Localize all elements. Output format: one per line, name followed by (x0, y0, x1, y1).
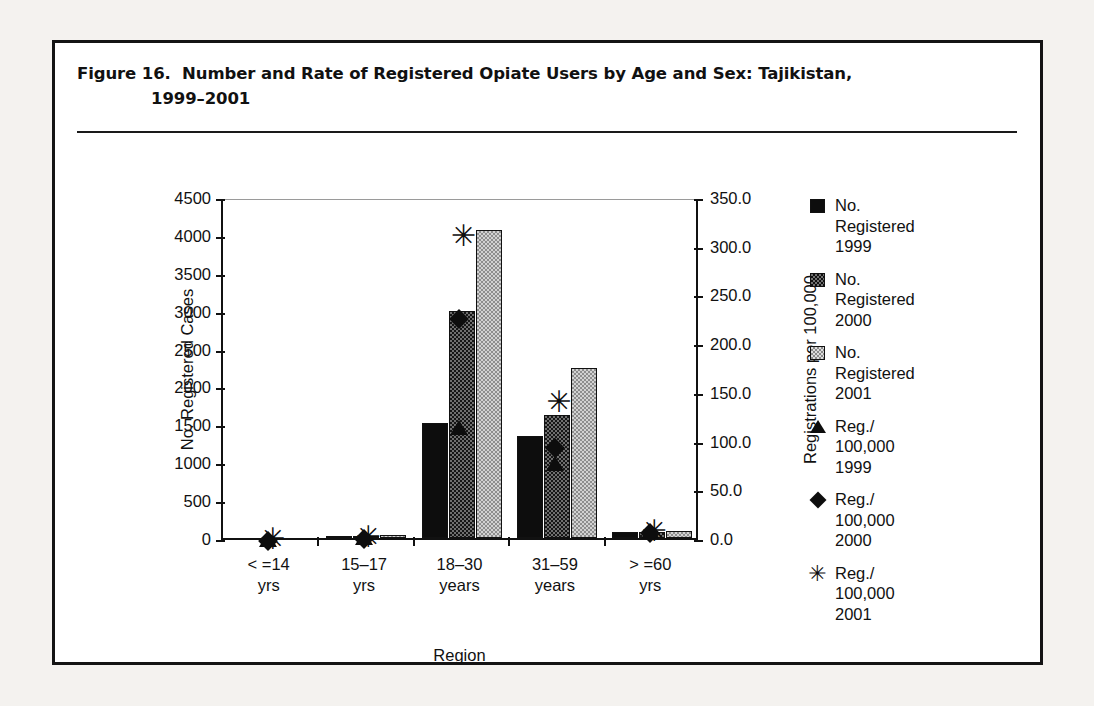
legend-item-0[interactable]: No. Registered 1999 (810, 195, 1035, 257)
x-axis-category-label: 15–17 yrs (316, 554, 411, 596)
legend-swatch-icon (810, 346, 825, 360)
y-axis-left-tick (216, 540, 225, 542)
legend-marker-icon (810, 420, 825, 436)
x-axis-category-label: > =60 yrs (603, 554, 698, 596)
y-axis-left-tick (216, 464, 225, 466)
y-axis-left-tick (216, 426, 225, 428)
y-axis-right-tick (694, 540, 703, 542)
y-axis-right-tick-label: 0.0 (710, 530, 790, 549)
y-axis-right-tick (694, 443, 703, 445)
legend-label: No. Registered 2000 (835, 269, 915, 331)
legend-label: Reg./ 100,000 2001 (835, 563, 895, 625)
legend-item-4[interactable]: Reg./ 100,000 2000 (810, 489, 1035, 551)
bar-1999-3 (517, 436, 543, 538)
bar-1999-4 (612, 532, 638, 538)
y-axis-left-tick-label: 4500 (135, 189, 211, 208)
y-axis-right-tick-label: 300.0 (710, 238, 790, 257)
legend-triangle-icon (810, 420, 826, 433)
y-axis-left-tick-label: 2000 (135, 378, 211, 397)
y-axis-right-tick-label: 100.0 (710, 433, 790, 452)
bar-2000-3 (544, 415, 570, 538)
legend-swatch-icon (810, 199, 825, 213)
legend-marker-icon (810, 493, 825, 509)
chart-canvas: No. Registered Cases Registrations per 1… (55, 43, 1046, 668)
bar-2001-4 (666, 531, 692, 538)
legend-asterisk-icon: ✳ (808, 567, 826, 581)
y-axis-right-tick (694, 345, 703, 347)
figure-card: Figure 16. Number and Rate of Registered… (52, 40, 1043, 665)
legend-label: No. Registered 2001 (835, 342, 915, 404)
y-axis-left-tick (216, 313, 225, 315)
chart-legend: No. Registered 1999No. Registered 2000No… (810, 195, 1035, 636)
y-axis-right-tick-label: 250.0 (710, 286, 790, 305)
marker-triangle-2 (450, 420, 468, 435)
x-axis-tick (413, 537, 415, 546)
legend-item-5[interactable]: ✳Reg./ 100,000 2001 (810, 563, 1035, 625)
y-axis-right-tick-label: 350.0 (710, 189, 790, 208)
legend-label: No. Registered 1999 (835, 195, 915, 257)
y-axis-right-tick (694, 248, 703, 250)
bar-1999-1 (326, 536, 352, 538)
y-axis-left-tick (216, 275, 225, 277)
y-axis-left-tick (216, 237, 225, 239)
y-axis-left-tick (216, 351, 225, 353)
y-axis-right-tick-label: 150.0 (710, 384, 790, 403)
y-axis-title-left: No. Registered Cases (177, 199, 199, 540)
y-axis-left-tick-label: 1000 (135, 454, 211, 473)
x-axis-title: Region (221, 646, 698, 665)
y-axis-left-tick-label: 2500 (135, 341, 211, 360)
y-axis-left-tick-label: 4000 (135, 227, 211, 246)
legend-item-2[interactable]: No. Registered 2001 (810, 342, 1035, 404)
y-axis-left-tick-label: 0 (135, 530, 211, 549)
y-axis-left-tick-label: 3500 (135, 265, 211, 284)
y-axis-left-tick-label: 500 (135, 492, 211, 511)
y-axis-left-tick-label: 1500 (135, 416, 211, 435)
y-axis-right-tick (694, 491, 703, 493)
legend-marker-icon: ✳ (810, 567, 825, 583)
bar-2001-1 (380, 535, 406, 538)
y-axis-right-tick (694, 296, 703, 298)
x-axis-tick (508, 537, 510, 546)
y-axis-right-tick-label: 200.0 (710, 335, 790, 354)
y-axis-right-tick (694, 394, 703, 396)
x-axis-tick (317, 537, 319, 546)
bar-2001-2 (476, 230, 502, 538)
legend-label: Reg./ 100,000 2000 (835, 489, 895, 551)
legend-diamond-icon (809, 492, 826, 509)
plot-area: ✳✳✳✳✳ (221, 199, 698, 540)
y-axis-left-tick-label: 3000 (135, 303, 211, 322)
y-axis-left-tick (216, 388, 225, 390)
y-axis-right-tick (694, 199, 703, 201)
y-axis-left-tick (216, 199, 225, 201)
x-axis-tick (604, 537, 606, 546)
x-axis-category-label: 18–30 years (412, 554, 507, 596)
x-axis-category-label: < =14 yrs (221, 554, 316, 596)
y-axis-left-tick (216, 502, 225, 504)
legend-swatch-icon (810, 273, 825, 287)
legend-item-1[interactable]: No. Registered 2000 (810, 269, 1035, 331)
x-axis-category-label: 31–59 years (507, 554, 602, 596)
bar-2001-3 (571, 368, 597, 539)
legend-label: Reg./ 100,000 1999 (835, 416, 895, 478)
bar-1999-2 (422, 423, 448, 538)
legend-item-3[interactable]: Reg./ 100,000 1999 (810, 416, 1035, 478)
y-axis-right-tick-label: 50.0 (710, 481, 790, 500)
